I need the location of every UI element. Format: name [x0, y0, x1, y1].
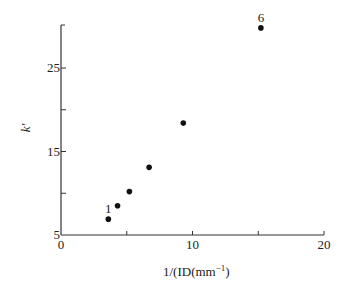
point-label: 1	[105, 201, 112, 216]
data-point	[127, 189, 133, 195]
scatter-chart: 0102051525 16 1/(ID(mm−1) k′	[0, 0, 346, 294]
point-label: 6	[258, 10, 265, 25]
y-tick-label: 5	[54, 227, 61, 242]
data-point	[106, 216, 112, 222]
data-point	[180, 120, 186, 126]
x-tick-label: 10	[186, 237, 199, 252]
y-tick-label: 15	[47, 144, 60, 159]
data-point	[258, 25, 264, 31]
x-tick-label: 20	[318, 237, 331, 252]
data-point	[146, 165, 152, 171]
data-point	[115, 203, 121, 209]
y-tick-label: 25	[47, 60, 60, 75]
axes: 0102051525	[47, 25, 331, 252]
x-axis-label: 1/(ID(mm−1)	[163, 263, 230, 279]
data-points: 16	[105, 10, 265, 222]
y-axis-label: k′	[18, 124, 33, 133]
